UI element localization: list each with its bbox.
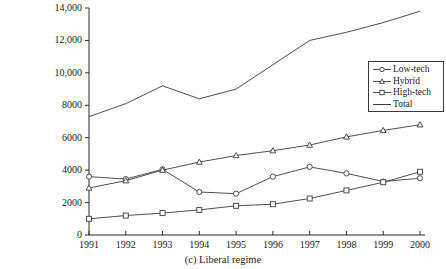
x-axis-tick-label: 1992 — [106, 240, 146, 250]
circle-marker-icon — [372, 64, 392, 75]
x-axis-tick-label: 1999 — [363, 240, 403, 250]
x-axis-tick-label: 1995 — [216, 240, 256, 250]
series-hybrid — [86, 122, 423, 190]
y-axis-tick-label: 4000 — [62, 165, 82, 175]
x-axis-tick-label: 1996 — [253, 240, 293, 250]
chart-legend: Low-tech Hybrid High-tech Total — [368, 61, 444, 112]
legend-item-high-tech: High-tech — [372, 87, 441, 99]
x-axis-tick-label: 1994 — [179, 240, 219, 250]
x-axis-tick-label: 1993 — [143, 240, 183, 250]
legend-item-hybrid: Hybrid — [372, 76, 441, 88]
figure-caption: (c) Liberal regime — [0, 254, 446, 265]
y-axis-tick-label: 10,000 — [55, 68, 83, 78]
series-low-tech — [86, 164, 422, 196]
legend-item-total: Total — [372, 99, 441, 111]
y-axis-tick-label: 12,000 — [55, 35, 83, 45]
x-axis-tick-label: 2000 — [400, 240, 440, 250]
y-axis-tick-label: 6000 — [62, 133, 82, 143]
y-axis-tick-label: 8000 — [62, 100, 82, 110]
y-axis-tick-label: 14,000 — [55, 3, 83, 13]
legend-label: High-tech — [393, 87, 431, 98]
square-marker-icon — [372, 87, 392, 98]
legend-label: Low-tech — [393, 64, 429, 75]
legend-label: Total — [393, 99, 412, 110]
triangle-marker-icon — [372, 76, 392, 87]
y-axis-tick-label: 2000 — [62, 198, 82, 208]
plain-line-icon — [372, 99, 392, 110]
x-axis-tick-label: 1998 — [326, 240, 366, 250]
legend-label: Hybrid — [393, 76, 420, 87]
chart-figure: Low-tech Hybrid High-tech Total (c) Libe… — [0, 0, 446, 269]
x-axis-tick-label: 1991 — [69, 240, 109, 250]
legend-item-low-tech: Low-tech — [372, 64, 441, 76]
x-axis-tick-label: 1997 — [290, 240, 330, 250]
